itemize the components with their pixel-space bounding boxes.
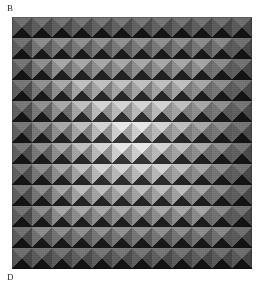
pyramid-tile — [12, 80, 32, 101]
pyramid-tile — [132, 38, 152, 59]
pyramid-tile — [112, 17, 132, 38]
pyramid-tile — [232, 185, 252, 206]
pyramid-tile — [152, 38, 172, 59]
pyramid-tile — [112, 101, 132, 122]
pyramid-tile — [32, 143, 52, 164]
pyramid-tile — [212, 164, 232, 185]
pyramid-tile — [192, 80, 212, 101]
pyramid-tile — [132, 227, 152, 248]
pyramid-tile — [112, 122, 132, 143]
pyramid-tile — [72, 101, 92, 122]
pyramid-tile — [172, 248, 192, 269]
pyramid-tile — [212, 101, 232, 122]
pyramid-tile — [192, 164, 212, 185]
pyramid-tile — [32, 38, 52, 59]
figure-root: B D — [0, 0, 262, 285]
pyramid-tile — [112, 164, 132, 185]
pyramid-tile — [172, 101, 192, 122]
pyramid-tile — [72, 38, 92, 59]
tile-grid — [12, 17, 252, 269]
pyramid-tile — [212, 17, 232, 38]
pyramid-tile — [72, 248, 92, 269]
pyramid-tile — [112, 59, 132, 80]
pyramid-tile — [52, 101, 72, 122]
pyramid-tile — [212, 143, 232, 164]
pyramid-tile — [112, 185, 132, 206]
pyramid-tile — [12, 17, 32, 38]
pyramid-tile — [32, 17, 52, 38]
pyramid-tile — [72, 206, 92, 227]
pyramid-tile — [132, 185, 152, 206]
pyramid-tile — [32, 185, 52, 206]
pyramid-tile — [192, 59, 212, 80]
pyramid-tile — [132, 164, 152, 185]
pyramid-tile — [12, 206, 32, 227]
pyramid-tile — [72, 17, 92, 38]
pyramid-tile — [152, 80, 172, 101]
pyramid-tile — [232, 59, 252, 80]
pyramid-tile — [92, 122, 112, 143]
pyramid-tile — [112, 206, 132, 227]
pyramid-tile — [92, 227, 112, 248]
pyramid-tile — [132, 101, 152, 122]
pyramid-tile — [212, 59, 232, 80]
pyramid-tile — [212, 227, 232, 248]
pyramid-tile — [32, 227, 52, 248]
pyramid-tile — [132, 17, 152, 38]
pyramid-tile — [152, 185, 172, 206]
pyramid-tile — [212, 38, 232, 59]
pyramid-tile — [52, 164, 72, 185]
pyramid-tile — [172, 59, 192, 80]
pyramid-tile — [12, 101, 32, 122]
pyramid-tile — [52, 80, 72, 101]
pyramid-tile — [152, 17, 172, 38]
pyramid-tile — [92, 38, 112, 59]
pyramid-tile — [152, 248, 172, 269]
pyramid-tile — [92, 206, 112, 227]
pyramid-tile — [32, 122, 52, 143]
pyramid-tile — [72, 59, 92, 80]
pyramid-tile — [32, 248, 52, 269]
pyramid-tile — [152, 143, 172, 164]
pyramid-tile — [12, 59, 32, 80]
pyramid-tile — [152, 101, 172, 122]
pyramid-tile — [12, 122, 32, 143]
pyramid-tile — [32, 80, 52, 101]
pyramid-tile — [12, 227, 32, 248]
pyramid-tile — [92, 248, 112, 269]
pyramid-tile — [152, 206, 172, 227]
pyramid-tile — [52, 122, 72, 143]
pyramid-tile — [132, 122, 152, 143]
pyramid-tile — [32, 59, 52, 80]
pyramid-tile — [52, 38, 72, 59]
tiles-layer — [12, 17, 252, 269]
pyramid-tile — [232, 122, 252, 143]
pyramid-tile — [72, 164, 92, 185]
pyramid-tile — [152, 227, 172, 248]
pyramid-tile — [132, 80, 152, 101]
pyramid-tile — [192, 38, 212, 59]
pyramid-tile — [112, 227, 132, 248]
pyramid-tile — [172, 17, 192, 38]
pyramid-tile — [92, 185, 112, 206]
pyramid-tile — [72, 122, 92, 143]
pyramid-tile — [152, 164, 172, 185]
pyramid-tile — [112, 80, 132, 101]
pyramid-tile — [92, 59, 112, 80]
pyramid-tile — [232, 227, 252, 248]
pyramid-tile — [172, 80, 192, 101]
pyramid-tile — [192, 248, 212, 269]
pyramid-tile — [52, 59, 72, 80]
pyramid-tile — [232, 248, 252, 269]
pyramid-tile — [52, 206, 72, 227]
pyramid-tile — [172, 164, 192, 185]
pyramid-tile — [132, 248, 152, 269]
pyramid-tile — [52, 143, 72, 164]
pyramid-tile — [192, 227, 212, 248]
pyramid-tile — [112, 38, 132, 59]
pyramid-tile — [172, 227, 192, 248]
pyramid-tile — [192, 185, 212, 206]
pyramid-tile — [232, 143, 252, 164]
pyramid-tile — [152, 122, 172, 143]
pyramid-tile — [132, 143, 152, 164]
